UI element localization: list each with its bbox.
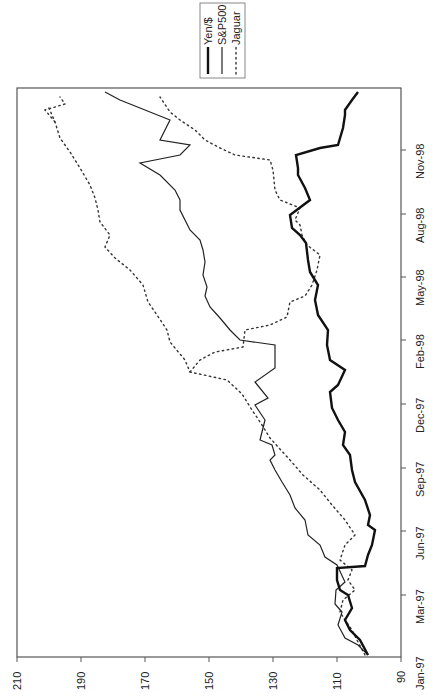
- value-tick-170: 170: [139, 672, 151, 690]
- value-axis: 210 190 170 150 130 110 90: [11, 657, 407, 690]
- time-tick-jun-97: Jun-97: [414, 526, 426, 560]
- time-tick-sep-97: Sep-97: [414, 462, 426, 497]
- series-yen-line: [290, 92, 375, 655]
- value-tick-210: 210: [11, 672, 23, 690]
- legend-label-jaguar: Jaguar: [230, 11, 242, 45]
- time-tick-mar-97: Mar-97: [414, 589, 426, 624]
- value-tick-130: 130: [267, 672, 279, 690]
- value-tick-90: 90: [395, 671, 407, 683]
- time-axis: Jan-97 Mar-97 Jun-97 Sep-97 Dec-97 Feb-9…: [401, 144, 426, 690]
- time-tick-aug-98: Aug-98: [414, 208, 426, 243]
- series-jaguar-line: [49, 108, 365, 655]
- legend: Yen/$ S&P500 Jaguar: [200, 3, 245, 78]
- chart-canvas: 210 190 170 150 130 110 90 Jan-97 Mar-97…: [0, 0, 435, 700]
- time-tick-feb-98: Feb-98: [414, 334, 426, 369]
- series-sp500-line: [105, 92, 368, 655]
- time-tick-may-98: May-98: [414, 269, 426, 306]
- time-tick-nov-98: Nov-98: [414, 144, 426, 179]
- legend-label-yen: Yen/$: [202, 17, 214, 45]
- series-jaguar-top: [160, 97, 320, 372]
- series-jaguar-upper: [45, 97, 65, 122]
- time-tick-jan-97: Jan-97: [414, 656, 426, 690]
- value-tick-150: 150: [203, 672, 215, 690]
- value-tick-110: 110: [331, 672, 343, 690]
- time-tick-dec-97: Dec-97: [414, 398, 426, 433]
- value-tick-190: 190: [75, 672, 87, 690]
- legend-label-sp500: S&P500: [216, 5, 228, 45]
